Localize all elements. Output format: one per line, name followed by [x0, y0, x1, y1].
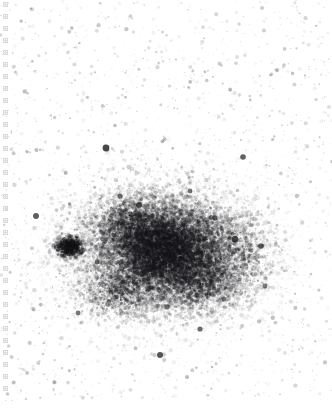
- scatter-plot-canvas: [0, 0, 332, 414]
- scatter-figure: [0, 0, 332, 414]
